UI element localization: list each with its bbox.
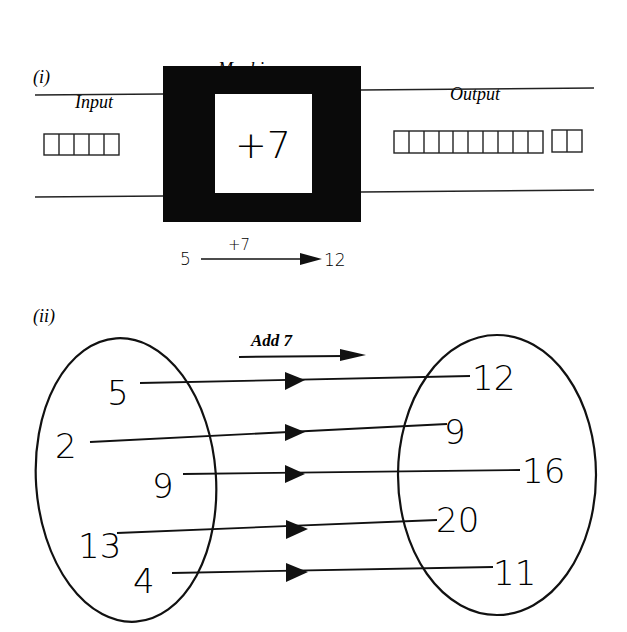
machine-operation: +7: [235, 123, 291, 167]
input-value: 9: [152, 466, 174, 506]
rule-arrow-head: [340, 349, 366, 361]
output-label: Output: [450, 84, 501, 104]
output-value: 16: [522, 451, 565, 491]
example-op: +7: [228, 236, 250, 254]
example-to: 12: [324, 250, 346, 270]
output-value: 11: [493, 553, 536, 593]
part-ii-label: (ii): [33, 306, 55, 327]
input-squares: [44, 134, 119, 155]
output-value: 9: [444, 412, 466, 452]
example-from: 5: [180, 249, 191, 269]
output-value: 12: [472, 358, 515, 398]
function-machine-diagram: (i) Machine Input Output +7 5 +7: [0, 0, 627, 632]
input-value: 4: [133, 561, 155, 601]
output-value: 20: [436, 500, 479, 540]
range-values: 12 9 16 20 11: [436, 358, 565, 593]
rule-label: Add 7: [250, 331, 294, 350]
input-value: 5: [107, 373, 129, 413]
output-squares: [394, 130, 582, 153]
mapping-arrowheads: [285, 372, 308, 582]
rule-arrow-line: [239, 356, 345, 357]
input-value: 13: [78, 526, 121, 566]
domain-values: 5 2 9 13 4: [55, 373, 174, 601]
input-value: 2: [55, 426, 77, 466]
part-i-label: (i): [33, 67, 50, 88]
example-arrow-head: [300, 253, 322, 265]
